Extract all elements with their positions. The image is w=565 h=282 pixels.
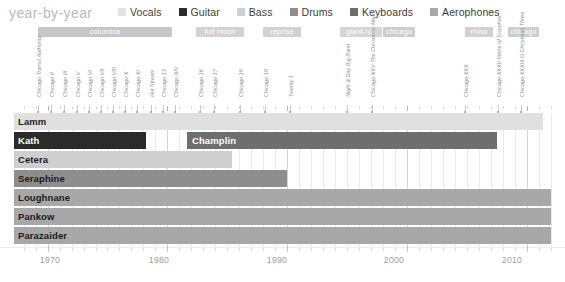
member-row[interactable]: Cetera — [0, 151, 565, 168]
legend-swatch-icon — [290, 8, 298, 16]
record-label-band[interactable]: chicago — [383, 27, 415, 37]
ruler-tick — [107, 106, 108, 109]
ruler-tick — [323, 106, 324, 109]
album-title: Hot Streets — [149, 69, 155, 97]
album-title: Chicago VI — [87, 70, 93, 97]
ruler-tick — [96, 106, 97, 109]
axis-tick — [191, 248, 192, 251]
legend-label: Guitar — [191, 6, 220, 18]
axis-tick — [347, 248, 348, 251]
axis-tick — [551, 248, 552, 251]
album-title: Chicago XXV The Christmas Album — [370, 10, 376, 97]
record-label-band[interactable]: columbia — [38, 27, 172, 37]
ruler-tick — [419, 106, 420, 109]
member-row[interactable]: Parazaider — [0, 227, 565, 244]
legend-item-aerophones[interactable]: Aerophones — [430, 6, 500, 18]
chart-body: LammKathChamplinCeteraSeraphineLoughnane… — [0, 113, 565, 247]
axis-tick — [84, 248, 85, 251]
legend-item-vocals[interactable]: Vocals — [118, 6, 162, 18]
member-bar[interactable] — [14, 113, 543, 130]
album-title: Chicago 13 — [161, 69, 167, 97]
ruler-tick — [36, 106, 37, 109]
member-row[interactable]: Seraphine — [0, 170, 565, 187]
member-bar[interactable] — [14, 189, 551, 206]
axis-tick — [431, 248, 432, 251]
ruler-tick — [359, 106, 360, 109]
member-row[interactable]: Lamm — [0, 113, 565, 130]
ruler-tick — [24, 106, 25, 109]
legend: VocalsGuitarBassDrumsKeyboardsAerophones — [118, 6, 517, 18]
ruler-tick — [84, 106, 85, 109]
legend-item-keyboards[interactable]: Keyboards — [350, 6, 413, 18]
album-title: Chicago XIV — [173, 66, 179, 97]
member-bar[interactable] — [14, 227, 551, 244]
legend-swatch-icon — [118, 8, 126, 16]
ruler-tick — [143, 106, 144, 109]
member-name: Kath — [18, 132, 40, 149]
album-title: Chicago 17 — [212, 69, 218, 97]
axis-tick — [167, 246, 168, 252]
member-row[interactable]: Loughnane — [0, 189, 565, 206]
axis-tick — [491, 248, 492, 251]
ruler-tick — [251, 106, 252, 109]
axis-tick — [60, 248, 61, 251]
axis-tick — [131, 248, 132, 251]
axis-tick — [311, 248, 312, 251]
album-title: Chicago XXX — [463, 64, 469, 97]
ruler-tick — [539, 106, 540, 109]
ruler-tick — [371, 106, 372, 109]
legend-item-guitar[interactable]: Guitar — [179, 6, 220, 18]
album-title: Chicago VII — [99, 69, 105, 97]
member-row[interactable]: Pankow — [0, 208, 565, 225]
axis-tick — [203, 248, 204, 251]
legend-item-bass[interactable]: Bass — [237, 6, 273, 18]
axis-tick — [119, 248, 120, 251]
ruler-tick — [383, 106, 384, 109]
axis-tick-label: 2010 — [502, 255, 522, 265]
album-title: Chicago VIII — [111, 67, 117, 97]
album-title: Chicago 18 — [238, 69, 244, 97]
axis-tick — [72, 248, 73, 251]
record-label-band[interactable]: rhino — [465, 27, 493, 37]
member-name: Parazaider — [18, 227, 67, 244]
axis-tick — [371, 248, 372, 251]
member-bar[interactable] — [14, 208, 551, 225]
ruler-tick — [275, 106, 276, 109]
record-label-band[interactable]: reprise — [263, 27, 301, 37]
legend-label: Bass — [249, 6, 273, 18]
ruler-tick — [131, 106, 132, 109]
ruler-tick — [299, 106, 300, 109]
axis-tick — [143, 248, 144, 251]
axis-tick — [383, 248, 384, 251]
record-label-band[interactable]: full moon — [196, 27, 244, 37]
album-title: Chicago 19 — [263, 69, 269, 97]
axis-tick-label: 1990 — [267, 255, 287, 265]
year-by-year-chart: year-by-year VocalsGuitarBassDrumsKeyboa… — [0, 0, 565, 282]
member-name: Lamm — [18, 113, 46, 130]
axis-tick — [179, 248, 180, 251]
album-title: Chicago XXXIII O Christmas Three — [519, 12, 525, 97]
member-name: Seraphine — [18, 170, 65, 187]
album-ruler — [0, 106, 565, 112]
member-row[interactable]: KathChamplin — [0, 132, 565, 149]
legend-swatch-icon — [350, 8, 358, 16]
axis-tick — [239, 248, 240, 251]
ruler-tick — [191, 106, 192, 109]
axis-tick — [275, 248, 276, 251]
album-title: Chicago 16 — [198, 69, 204, 97]
ruler-tick — [527, 106, 528, 111]
legend-item-drums[interactable]: Drums — [290, 6, 333, 18]
axis-tick — [467, 248, 468, 251]
album-title: Chicago III — [62, 71, 68, 97]
ruler-tick — [443, 106, 444, 109]
ruler-tick — [227, 106, 228, 109]
ruler-tick — [60, 106, 61, 109]
album-title: Chicago V — [75, 72, 81, 97]
album-title: Chicago Transit Authority — [36, 36, 42, 97]
axis-tick — [527, 246, 528, 252]
axis-tick — [443, 248, 444, 251]
ruler-tick — [215, 106, 216, 109]
axis-tick — [155, 248, 156, 251]
axis-tick — [407, 246, 408, 252]
axis-tick — [287, 246, 288, 252]
